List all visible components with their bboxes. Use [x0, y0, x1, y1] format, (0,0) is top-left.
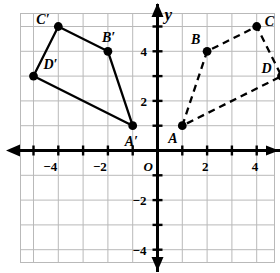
y-axis-tick-label: 4: [141, 45, 148, 58]
vertex-label: B′: [102, 31, 115, 45]
vertex-label: B: [191, 33, 200, 47]
vertex-point: [54, 22, 63, 31]
vertex-point: [178, 121, 187, 130]
vertex-point: [203, 47, 212, 56]
vertex-label: D′: [44, 58, 58, 72]
coordinate-plane-figure: ABCDA′B′C′D′−4−22442−2−4Oy: [0, 0, 280, 273]
y-axis-arrow-up: [152, 3, 164, 17]
x-axis-arrow-right: [266, 146, 279, 156]
graph-canvas: [0, 0, 280, 273]
x-axis-tick-label: −4: [43, 160, 57, 173]
grid-lines: [21, 14, 275, 263]
vertex-point: [252, 22, 261, 31]
x-axis-arrow-left: [6, 145, 20, 157]
vertex-label: A′: [125, 135, 138, 149]
vertex-label: C: [265, 15, 274, 29]
origin-label: O: [144, 160, 153, 173]
x-axis-tick-label: 2: [202, 160, 209, 173]
y-axis-arrow-down: [152, 257, 164, 271]
y-axis-tick-label: 2: [141, 95, 148, 108]
vertex-point: [128, 121, 137, 130]
x-axis-tick-label: −2: [93, 160, 107, 173]
vertex-point: [104, 47, 113, 56]
vertex-label: D: [262, 62, 272, 76]
vertex-label: C′: [36, 13, 49, 27]
y-axis-tick-label: −4: [133, 244, 147, 257]
vertex-point: [29, 72, 38, 81]
x-axis-tick-label: 4: [252, 160, 259, 173]
y-axis-tick-label: −2: [133, 194, 147, 207]
vertex-label: A: [168, 132, 177, 146]
y-axis-name: y: [165, 6, 173, 23]
